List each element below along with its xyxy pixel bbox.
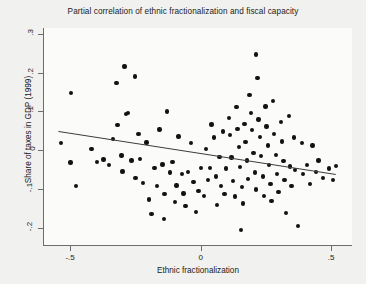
x-tick-label: 0 xyxy=(186,253,216,262)
y-tick-label: -.2 xyxy=(0,222,34,231)
chart-title: Partial correlation of ethnic fractional… xyxy=(0,7,366,16)
x-tick-mark xyxy=(331,246,332,251)
x-tick-label: -.5 xyxy=(55,253,85,262)
y-tick-mark xyxy=(38,150,43,151)
x-axis-line xyxy=(43,245,352,246)
regression-line xyxy=(44,28,352,245)
x-tick-mark xyxy=(70,246,71,251)
y-axis-label: Share of taxes in GDP (1999) xyxy=(24,40,33,220)
y-tick-mark xyxy=(38,189,43,190)
x-tick-mark xyxy=(201,246,202,251)
y-tick-mark xyxy=(38,111,43,112)
y-tick-mark xyxy=(38,34,43,35)
x-axis-label: Ethnic fractionalization xyxy=(44,266,352,275)
y-tick-label: .3 xyxy=(0,28,34,37)
y-tick-mark xyxy=(38,73,43,74)
chart-figure: Partial correlation of ethnic fractional… xyxy=(0,0,366,284)
y-tick-mark xyxy=(38,228,43,229)
x-tick-label: .5 xyxy=(316,253,346,262)
